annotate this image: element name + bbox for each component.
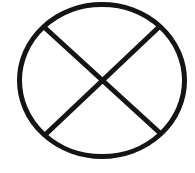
icon-canvas bbox=[0, 0, 195, 173]
circle-x-icon bbox=[0, 0, 195, 173]
